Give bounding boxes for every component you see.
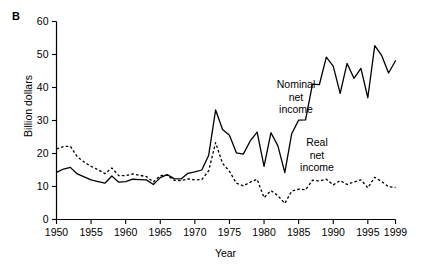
x-tick-label: 1980 — [252, 226, 276, 238]
y-tick-label: 0 — [43, 213, 49, 225]
series-annotations: NominalnetincomeRealnetincome — [277, 78, 334, 173]
figure-panel-b: B Billion dollars Year 0102030405060 195… — [0, 0, 421, 269]
series-line-real-net-income — [57, 143, 396, 204]
x-tick-label: 1970 — [183, 226, 207, 238]
y-tick-label: 50 — [37, 48, 49, 60]
line-chart-plot: 0102030405060 19501955196019651970197519… — [0, 0, 421, 269]
y-tick-label: 10 — [37, 180, 49, 192]
x-tick-label: 1985 — [287, 226, 311, 238]
x-tick-label: 1975 — [218, 226, 242, 238]
annotation-line: income — [279, 103, 313, 115]
x-tick-label: 1995 — [356, 226, 380, 238]
y-tick-label: 20 — [37, 147, 49, 159]
x-tick-label: 1990 — [322, 226, 346, 238]
series-line-nominal-net-income — [57, 46, 396, 185]
annotation-line: income — [300, 161, 334, 173]
x-axis-ticks: 1950195519601965197019751980198519901995… — [45, 220, 408, 239]
annotation-line: net — [289, 91, 304, 103]
x-tick-label: 1955 — [79, 226, 103, 238]
annotation-line: net — [310, 149, 325, 161]
series-annotation-real: Realnetincome — [300, 136, 334, 173]
annotation-line: Nominal — [277, 78, 316, 90]
y-tick-label: 40 — [37, 81, 49, 93]
x-tick-label: 1999 — [384, 226, 408, 238]
y-tick-label: 30 — [37, 114, 49, 126]
y-axis-ticks: 0102030405060 — [37, 15, 57, 225]
x-tick-label: 1950 — [45, 226, 69, 238]
y-tick-label: 60 — [37, 15, 49, 27]
annotation-line: Real — [306, 136, 328, 148]
data-series — [57, 46, 396, 204]
axis-lines — [57, 22, 396, 220]
x-tick-label: 1965 — [149, 226, 173, 238]
x-tick-label: 1960 — [114, 226, 138, 238]
